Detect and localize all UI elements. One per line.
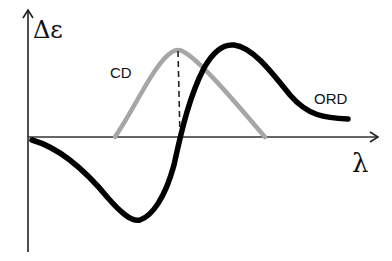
ord-curve [32, 45, 348, 220]
x-axis-label: λ [352, 148, 368, 178]
peak-dashed-line [178, 51, 180, 137]
y-axis-label: Δε [33, 16, 63, 44]
ord-label: ORD [314, 90, 348, 107]
cd-ord-diagram: Δε λ CD ORD [0, 0, 392, 261]
cd-label: CD [110, 64, 132, 81]
cd-curve [115, 50, 265, 137]
